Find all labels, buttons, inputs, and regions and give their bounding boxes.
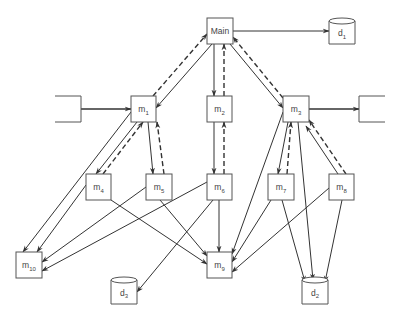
external-sink-box [359, 96, 385, 122]
edge-m1-to-m5 [148, 122, 153, 174]
edge-m3-to-m7 [278, 122, 288, 174]
node-label: Main [211, 26, 230, 36]
node-m2: m2 [207, 96, 232, 122]
edge-m4-to-m1-dashed [103, 122, 143, 174]
edge-m3-to-d2 [298, 122, 313, 280]
node-main: Main [207, 18, 233, 44]
datastore-top [302, 277, 328, 283]
node-m10: m10 [16, 252, 42, 278]
node-m7: m7 [268, 174, 294, 200]
edge-m5-to-m9 [160, 200, 207, 256]
edges-layer [23, 31, 359, 292]
node-d2: d2 [302, 277, 328, 304]
edge-m1-to-m4 [96, 122, 137, 174]
node-m9: m9 [207, 252, 232, 278]
edge-m4-to-m9 [111, 200, 207, 264]
node-d3: d3 [111, 277, 137, 304]
datastore-top [111, 277, 137, 283]
edge-m7-to-m9 [232, 200, 271, 262]
external-source-box [55, 96, 81, 122]
node-m1: m1 [131, 96, 156, 122]
node-m6: m6 [207, 174, 232, 200]
structure-chart-diagram: Maind1m1m2m3m4m5m6m7m8m10m9d3d2 [0, 0, 397, 322]
node-out [359, 96, 385, 122]
node-in [55, 96, 81, 122]
edge-m5-to-m1-dashed [157, 122, 164, 174]
edge-m3-to-main-dashed [233, 37, 283, 98]
edge-m8-to-m3 [306, 126, 338, 174]
edge-m4-to-m10 [37, 185, 86, 252]
edge-main-to-m3 [230, 44, 283, 108]
node-m5: m5 [146, 174, 172, 200]
edge-m7-to-m3-dashed [287, 122, 291, 174]
node-m8: m8 [329, 174, 354, 200]
edge-m8-to-m3-dashed [309, 120, 346, 174]
node-m3: m3 [283, 96, 309, 122]
node-m4: m4 [86, 174, 111, 200]
edge-m8-to-d2 [325, 200, 342, 282]
edge-m8-to-m9 [232, 188, 329, 272]
edge-m1-to-m10 [23, 112, 131, 252]
edge-m1-to-main-dashed [153, 34, 207, 96]
node-d1: d1 [329, 18, 355, 44]
datastore-top [329, 18, 355, 24]
edge-main-to-m1 [156, 44, 212, 108]
